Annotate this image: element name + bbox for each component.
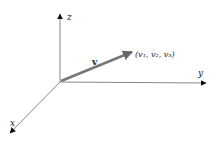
y-axis [60,82,206,83]
vector-label: v [91,57,98,67]
x-axis [10,82,60,133]
z-axis-label: z [66,12,72,22]
vector-3d-diagram: z y x v (v₁, v₂, v₃) [0,0,222,142]
endpoint-label: (v₁, v₂, v₃) [135,50,175,59]
x-axis-label: x [10,118,15,128]
y-axis-label: y [197,68,204,78]
